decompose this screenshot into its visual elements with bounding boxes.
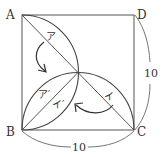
region-label-i: イ	[104, 91, 114, 102]
vertex-label-b: B	[6, 125, 15, 139]
arrow-i-to-i-prime	[76, 105, 113, 113]
arrow-a-to-a-prime	[36, 42, 45, 71]
dimension-arc-right-bottom	[135, 84, 150, 130]
region-label-a-prime: ア′	[38, 89, 51, 100]
region-label-a: ア	[46, 31, 56, 42]
diagonal-bo	[22, 73, 78, 131]
vertex-label-a: A	[5, 8, 15, 22]
dimension-arc-right-top	[135, 15, 150, 62]
region-label-i-prime: イ′	[52, 99, 65, 110]
vertex-label-d: D	[137, 8, 147, 22]
dimension-arc-bottom-left	[22, 131, 71, 147]
vertex-label-c: C	[137, 125, 146, 139]
geometry-figure: A D B C ア ア′ イ′ イ 10 10	[0, 0, 164, 157]
dimension-label-bottom: 10	[72, 141, 86, 154]
dimension-label-right: 10	[144, 67, 158, 80]
dimension-arc-bottom-right	[88, 131, 134, 147]
